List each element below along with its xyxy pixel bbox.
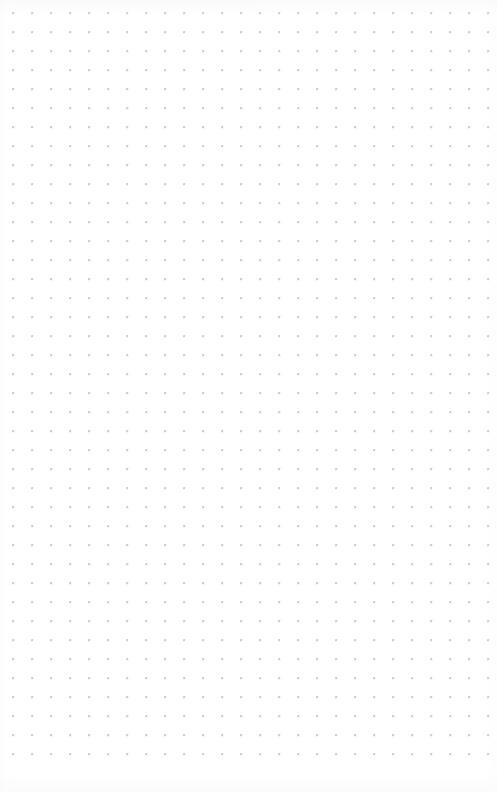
dot-grid-page	[0, 0, 497, 792]
dot-grid-pattern	[0, 0, 497, 772]
